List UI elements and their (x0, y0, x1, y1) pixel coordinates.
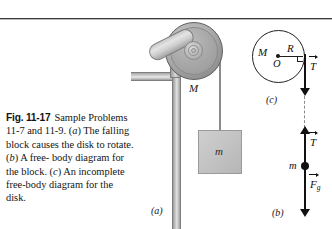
disk-mass-label-a: M (189, 82, 198, 94)
part-label-a: (a) (151, 205, 163, 216)
right-angle-marker-horizontal (297, 61, 303, 62)
gravity-vector-arrowhead-b (300, 209, 310, 217)
block-mass-label-a: m (215, 145, 223, 157)
radius-line (278, 56, 303, 57)
tension-vector-shaft-c (304, 54, 306, 90)
figure-page: M m (a) M O R T (c) m T Fg (b) Fig. 11-1… (0, 0, 332, 229)
caption-lead: Sample Problems (54, 112, 127, 123)
tension-vector-label-c: T (310, 60, 316, 72)
caption-line4-b: ) A free- (15, 152, 50, 163)
figure-caption: Fig. 11-17Sample Problems 11-7 and 11-9.… (6, 111, 134, 205)
disk-center-label: O (273, 58, 281, 69)
tension-vector-label-b: T (310, 136, 316, 148)
block-particle-dot (301, 162, 309, 170)
disk-mass-label-c: M (258, 46, 267, 58)
gravity-subscript: g (317, 183, 321, 192)
bracket-vertical-post (172, 78, 181, 229)
figure-number-label: Fig. 11-17 (6, 112, 50, 123)
caption-line2-b: ) The (77, 125, 99, 136)
vector-accent-T-c: T (310, 60, 316, 72)
part-label-c: (c) (266, 94, 277, 105)
force-axis-shaft-b (304, 132, 306, 212)
block-mass-label-b: m (289, 160, 297, 171)
vector-accent-Fg: F (310, 178, 317, 190)
part-c-disk-fbd: M O R T (248, 16, 332, 116)
radius-label: R (287, 42, 294, 54)
gravity-vector-label-b: Fg (310, 178, 320, 192)
tension-vector-arrowhead-c (300, 88, 310, 96)
part-label-b: (b) (272, 207, 284, 218)
caption-line2-a: 11-7 and 11-9. ( (6, 125, 72, 136)
disk-axle-center (191, 48, 196, 53)
vector-accent-T-b: T (310, 136, 316, 148)
part-b-block-fbd: m T Fg (248, 116, 332, 229)
